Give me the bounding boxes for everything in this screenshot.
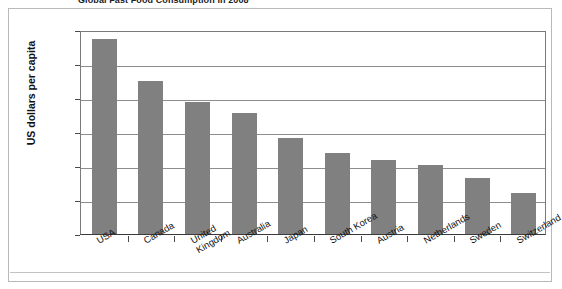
y-axis-tick-mark (75, 133, 80, 134)
y-axis-tick-mark (75, 99, 80, 100)
y-axis-tick-mark (75, 65, 80, 66)
y-axis-tick-mark (75, 235, 80, 236)
frame-bottom-rule (10, 272, 550, 273)
bar[interactable] (92, 39, 117, 235)
bar[interactable] (138, 81, 163, 234)
y-axis-tick-mark (75, 201, 80, 202)
bar[interactable] (371, 160, 396, 234)
bar[interactable] (185, 102, 210, 234)
x-axis-tick-labels: USACanadaUnited KingdomAustraliaJapanSou… (80, 237, 546, 281)
bar[interactable] (232, 113, 257, 234)
chart-title: Global Fast Food Consumption in 2008 (78, 0, 249, 5)
y-axis-title: US dollars per capita (25, 33, 37, 153)
bar[interactable] (325, 153, 350, 234)
bar[interactable] (418, 165, 443, 234)
bar[interactable] (278, 138, 303, 234)
plot-area (80, 31, 546, 235)
y-axis-tick-mark (75, 167, 80, 168)
chart-frame: US dollars per capita 0$100$200$300$400$… (8, 8, 552, 282)
bar-series (81, 32, 545, 234)
y-axis-tick-mark (75, 31, 80, 32)
